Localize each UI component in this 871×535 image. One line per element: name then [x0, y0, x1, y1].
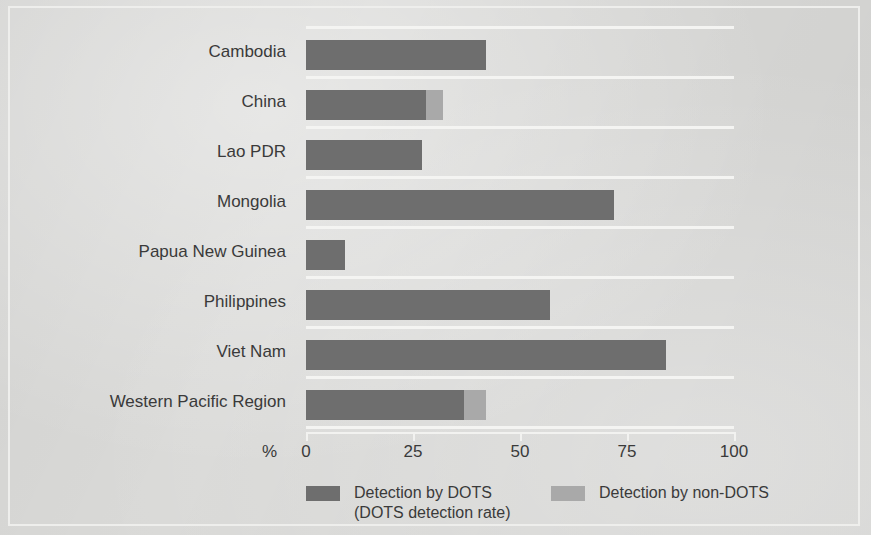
bar-segment-dots[interactable]	[306, 190, 614, 220]
bar-segment-dots[interactable]	[306, 390, 464, 420]
category-label: Lao PDR	[217, 142, 286, 162]
category-label: Mongolia	[217, 192, 286, 212]
bar-segment-dots[interactable]	[306, 240, 345, 270]
bar-segment-dots[interactable]	[306, 90, 426, 120]
stacked-bar[interactable]	[306, 190, 614, 220]
category-label: Cambodia	[209, 42, 287, 62]
bar-row	[306, 78, 734, 128]
bar-row	[306, 178, 734, 228]
bar-segment-dots[interactable]	[306, 40, 486, 70]
stacked-bar[interactable]	[306, 390, 486, 420]
x-axis-tick-label: 50	[511, 442, 530, 462]
x-axis-tick	[734, 432, 736, 441]
category-label: Viet Nam	[216, 342, 286, 362]
bar-segment-dots[interactable]	[306, 290, 550, 320]
bar-segment-non-dots[interactable]	[464, 390, 485, 420]
x-axis-tick	[627, 432, 629, 441]
bar-segment-dots[interactable]	[306, 140, 422, 170]
stacked-bar[interactable]	[306, 340, 666, 370]
category-label: Western Pacific Region	[110, 392, 286, 412]
legend-label: Detection by DOTS	[354, 483, 511, 503]
bar-segment-non-dots[interactable]	[426, 90, 443, 120]
x-axis-tick-label: 75	[618, 442, 637, 462]
chart-legend: Detection by DOTS(DOTS detection rate)De…	[306, 483, 776, 531]
legend-sublabel: (DOTS detection rate)	[354, 503, 511, 523]
bar-row	[306, 28, 734, 78]
x-axis-unit-label: %	[262, 442, 277, 462]
category-label: Papua New Guinea	[139, 242, 286, 262]
x-axis-tick-label: 25	[404, 442, 423, 462]
bar-row	[306, 128, 734, 178]
category-label: China	[242, 92, 286, 112]
bar-row	[306, 328, 734, 378]
x-axis-tick	[413, 432, 415, 441]
x-axis-tick-label: 100	[720, 442, 748, 462]
legend-item[interactable]: Detection by DOTS(DOTS detection rate)	[306, 483, 511, 523]
bar-segment-dots[interactable]	[306, 340, 666, 370]
legend-swatch-dots	[306, 486, 340, 501]
category-label: Philippines	[204, 292, 286, 312]
stacked-bar[interactable]	[306, 140, 422, 170]
plot-area	[306, 28, 734, 432]
stacked-bar[interactable]	[306, 90, 443, 120]
legend-swatch-nondots	[551, 486, 585, 501]
x-axis-tick-label: 0	[301, 442, 310, 462]
chart-figure: CambodiaChinaLao PDRMongoliaPapua New Gu…	[0, 0, 871, 535]
x-axis-tick	[520, 432, 522, 441]
bar-row	[306, 278, 734, 328]
stacked-bar[interactable]	[306, 40, 486, 70]
stacked-bar[interactable]	[306, 240, 345, 270]
stacked-bar[interactable]	[306, 290, 550, 320]
bar-row	[306, 228, 734, 278]
x-axis-tick	[306, 432, 308, 441]
bar-row	[306, 378, 734, 428]
legend-label: Detection by non-DOTS	[599, 483, 769, 503]
category-axis-labels: CambodiaChinaLao PDRMongoliaPapua New Gu…	[0, 28, 296, 432]
legend-label-group: Detection by non-DOTS	[585, 483, 769, 503]
legend-label-group: Detection by DOTS(DOTS detection rate)	[340, 483, 511, 523]
legend-item[interactable]: Detection by non-DOTS	[551, 483, 769, 503]
